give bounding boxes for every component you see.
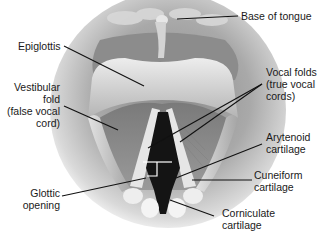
label-epiglottis: Epiglottis	[18, 40, 61, 52]
label-cuneiform-cartilage: Cuneiform cartilage	[254, 169, 302, 193]
label-corniculate-cartilage: Corniculate cartilage	[222, 207, 275, 231]
label-base-of-tongue: Base of tongue	[241, 10, 312, 22]
label-vestibular-fold: Vestibular fold (false vocal cord)	[2, 81, 60, 129]
arytenoid-left-shape	[123, 188, 143, 204]
larynx-diagram: Base of tongue Epiglottis Vestibular fol…	[0, 0, 319, 234]
corniculate-right-shape	[168, 198, 186, 218]
corniculate-left-shape	[141, 198, 159, 218]
label-glottic-opening: Glottic opening	[2, 187, 60, 211]
label-arytenoid-cartilage: Arytenoid cartilage	[266, 131, 310, 155]
arytenoid-right-shape	[183, 188, 203, 204]
label-vocal-folds: Vocal folds (true vocal cords)	[266, 66, 317, 102]
